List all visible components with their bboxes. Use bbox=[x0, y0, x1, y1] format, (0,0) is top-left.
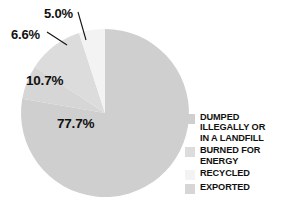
legend-swatch-exported bbox=[185, 184, 195, 194]
legend-label-line: IN A LANDFILL bbox=[200, 133, 265, 143]
pie-chart-figure: 77.7% 10.7% 6.6% 5.0% DUMPED ILLEGALLY O… bbox=[0, 0, 284, 218]
legend-label-dumped: DUMPED ILLEGALLY OR IN A LANDFILL bbox=[200, 112, 265, 143]
legend-swatch-recycled bbox=[185, 170, 195, 180]
legend-item-recycled[interactable]: RECYCLED bbox=[185, 168, 284, 180]
legend-swatch-dumped bbox=[185, 114, 195, 124]
leader-line-exported bbox=[47, 32, 67, 45]
legend-item-dumped[interactable]: DUMPED ILLEGALLY OR IN A LANDFILL bbox=[185, 112, 284, 143]
legend-label-line: RECYCLED bbox=[200, 168, 250, 178]
slice-label-exported: 6.6% bbox=[11, 27, 40, 42]
legend-label-burned: BURNED FOR ENERGY bbox=[200, 145, 260, 166]
legend-label-line: ENERGY bbox=[200, 156, 260, 166]
chart-legend: DUMPED ILLEGALLY OR IN A LANDFILL BURNED… bbox=[185, 112, 284, 196]
legend-label-line: DUMPED bbox=[200, 112, 265, 122]
legend-item-burned[interactable]: BURNED FOR ENERGY bbox=[185, 145, 284, 166]
legend-item-exported[interactable]: EXPORTED bbox=[185, 182, 284, 194]
slice-label-recycled: 5.0% bbox=[44, 6, 73, 21]
legend-label-exported: EXPORTED bbox=[200, 182, 250, 192]
legend-label-recycled: RECYCLED bbox=[200, 168, 250, 178]
legend-label-line: EXPORTED bbox=[200, 182, 250, 192]
slice-label-dumped: 77.7% bbox=[57, 116, 94, 131]
slice-label-burned: 10.7% bbox=[26, 73, 63, 88]
legend-label-line: BURNED FOR bbox=[200, 145, 260, 155]
legend-label-line: ILLEGALLY OR bbox=[200, 122, 265, 132]
legend-swatch-burned bbox=[185, 147, 195, 157]
